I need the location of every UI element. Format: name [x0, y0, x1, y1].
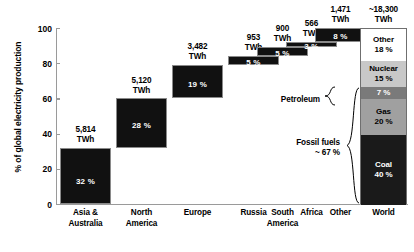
x-label-eu-line1: Europe — [170, 208, 225, 219]
world-segment-gas-label: Gas — [376, 107, 391, 117]
world-segment-nuclear-pct: 15 % — [375, 74, 393, 84]
y-tick-label-0: 0 — [30, 200, 52, 210]
bar-total-label-north-america: 5,120 TWh — [116, 76, 167, 96]
annotation-fossil-fuels-value: ~ 67 % — [260, 148, 340, 158]
y-tick-100 — [56, 28, 60, 29]
annotation-fossil-fuels-label: Fossil fuels — [260, 138, 340, 148]
y-tick-label-60: 60 — [30, 94, 52, 104]
y-tick-label-80: 80 — [30, 59, 52, 69]
bar-other[interactable]: 8 % — [315, 28, 366, 42]
bar-value-label-europe: 19 % — [173, 80, 222, 89]
y-tick-60 — [56, 98, 60, 99]
bar-twh-value-asia: 5,814 — [60, 125, 111, 135]
bar-value-label-russia: 5 % — [229, 58, 278, 67]
world-segment-coal-pct: 40 % — [375, 170, 393, 180]
x-label-na-line1: North — [114, 208, 169, 219]
world-segment-petroleum[interactable]: 7 % — [361, 87, 406, 99]
world-twh-value: ~18,300 — [356, 5, 411, 15]
bar-total-label-world: ~18,300 TWh — [356, 5, 411, 25]
y-tick-label-40: 40 — [30, 129, 52, 139]
bar-asia-australia[interactable]: 32 % — [60, 148, 111, 204]
world-segment-coal[interactable]: Coal 40 % — [361, 135, 406, 205]
world-segment-other-pct: 18 % — [375, 45, 393, 55]
x-label-europe: Europe — [170, 208, 225, 219]
world-stacked-column[interactable]: Other 18 % Nuclear 15 % 7 % Gas 20 % Coa… — [360, 28, 407, 204]
x-label-asia-line1: Asia & — [58, 208, 113, 219]
bar-total-label-europe: 3,482 TWh — [172, 42, 223, 62]
y-axis-title: % of global electricity production — [13, 17, 23, 197]
bar-value-label-asia-australia: 32 % — [61, 177, 110, 186]
world-segment-nuclear-label: Nuclear — [369, 64, 398, 74]
waterfall-chart-figure: % of global electricity production 100 8… — [0, 0, 414, 252]
y-tick-80 — [56, 63, 60, 64]
world-segment-gas[interactable]: Gas 20 % — [361, 99, 406, 134]
x-label-asia-line2: Australia — [58, 219, 113, 230]
world-segment-nuclear[interactable]: Nuclear 15 % — [361, 61, 406, 87]
annotation-petroleum: Petroleum — [240, 95, 320, 105]
world-segment-other[interactable]: Other 18 % — [361, 29, 406, 61]
world-segment-coal-label: Coal — [375, 160, 392, 170]
y-tick-label-20: 20 — [30, 164, 52, 174]
bar-twh-unit-na: TWh — [116, 86, 167, 96]
x-label-wo-line1: World — [356, 208, 411, 219]
petroleum-brace-icon — [323, 86, 337, 108]
bar-twh-unit-eu: TWh — [172, 52, 223, 62]
bar-value-label-other: 8 % — [316, 32, 365, 41]
annotation-petroleum-text: Petroleum — [240, 95, 320, 105]
y-tick-label-100: 100 — [30, 24, 52, 34]
annotation-fossil-fuels: Fossil fuels ~ 67 % — [260, 138, 340, 158]
bar-twh-unit-asia: TWh — [60, 135, 111, 145]
bar-total-label-asia-australia: 5,814 TWh — [60, 125, 111, 145]
bar-twh-value-na: 5,120 — [116, 76, 167, 86]
x-label-asia-australia: Asia & Australia — [58, 208, 113, 229]
y-axis-line — [56, 28, 57, 204]
bar-value-label-africa: 3 % — [287, 42, 336, 51]
world-segment-petroleum-pct: 7 % — [377, 88, 391, 98]
bar-north-america[interactable]: 28 % — [116, 98, 167, 147]
x-label-sa-line2: America — [255, 219, 310, 230]
bar-africa[interactable]: 3 % — [286, 42, 337, 47]
bar-europe[interactable]: 19 % — [172, 65, 223, 98]
x-label-north-america: North America — [114, 208, 169, 229]
bar-value-label-north-america: 28 % — [117, 121, 166, 130]
world-twh-unit: TWh — [356, 15, 411, 25]
bar-twh-value-eu: 3,482 — [172, 42, 223, 52]
world-segment-other-label: Other — [373, 35, 394, 45]
world-segment-gas-pct: 20 % — [375, 117, 393, 127]
x-label-na-line2: America — [114, 219, 169, 230]
fossil-fuels-brace-icon — [345, 87, 361, 205]
x-label-world: World — [356, 208, 411, 219]
